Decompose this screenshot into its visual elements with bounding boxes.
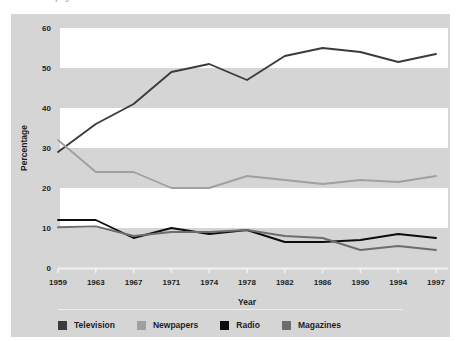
x-tick-label-1994: 1994 [389, 278, 407, 287]
chart-legend: TelevisionNewpapersRadioMagazines [11, 313, 450, 337]
x-tick-label-1963: 1963 [87, 278, 105, 287]
band-30-40 [60, 108, 448, 148]
plot-area: 0102030405060 19591963196719711974197819… [11, 14, 450, 337]
legend-item-magazines[interactable]: Magazines [282, 320, 341, 330]
chart-panel: 0102030405060 19591963196719711974197819… [11, 14, 450, 337]
legend-label: Television [74, 320, 115, 330]
x-tick-label-1974: 1974 [200, 278, 218, 287]
legend-separator-rule [58, 309, 403, 310]
y-axis-title: Percentage [19, 125, 29, 171]
y-tick-label-10: 10 [42, 224, 51, 233]
x-tick-label-1971: 1971 [163, 278, 181, 287]
y-tick-label-20: 20 [42, 184, 51, 193]
x-tick-label-1982: 1982 [276, 278, 294, 287]
x-tick-label-1990: 1990 [352, 278, 370, 287]
legend-swatch-television-icon [58, 321, 67, 330]
x-tick-label-1959: 1959 [49, 278, 67, 287]
legend-swatch-radio-icon [220, 321, 229, 330]
y-tick-label-30: 30 [42, 144, 51, 153]
legend-label: Newpapers [153, 320, 198, 330]
x-tick-label-1978: 1978 [238, 278, 256, 287]
clipped-caption-strip: p y [0, 0, 461, 14]
line-chart-figure: p y 0102030405060 1959196319671971197419… [0, 0, 461, 341]
band-50-60 [60, 28, 448, 68]
y-tick-label-50: 50 [42, 64, 51, 73]
y-axis-tick-labels: 0102030405060 [42, 24, 51, 273]
legend-item-television[interactable]: Television [58, 320, 115, 330]
legend-item-newpapers[interactable]: Newpapers [137, 320, 198, 330]
legend-label: Magazines [298, 320, 341, 330]
y-tick-label-40: 40 [42, 104, 51, 113]
legend-item-radio[interactable]: Radio [220, 320, 260, 330]
legend-label: Radio [236, 320, 260, 330]
x-tick-label-1967: 1967 [125, 278, 143, 287]
x-tick-label-1986: 1986 [314, 278, 332, 287]
x-tick-label-1997: 1997 [427, 278, 445, 287]
chart-svg: 0102030405060 19591963196719711974197819… [11, 14, 450, 337]
alternating-bands [60, 28, 448, 228]
y-tick-label-60: 60 [42, 24, 51, 33]
legend-swatch-newpapers-icon [137, 321, 146, 330]
band-10-20 [60, 188, 448, 228]
y-tick-label-0: 0 [47, 264, 52, 273]
x-axis-tick-marks [58, 269, 436, 273]
legend-swatch-magazines-icon [282, 321, 291, 330]
clipped-caption-text: p y [55, 0, 71, 2]
x-axis-title: Year [238, 297, 257, 307]
x-axis-tick-labels: 1959196319671971197419781982198619901994… [49, 278, 445, 287]
